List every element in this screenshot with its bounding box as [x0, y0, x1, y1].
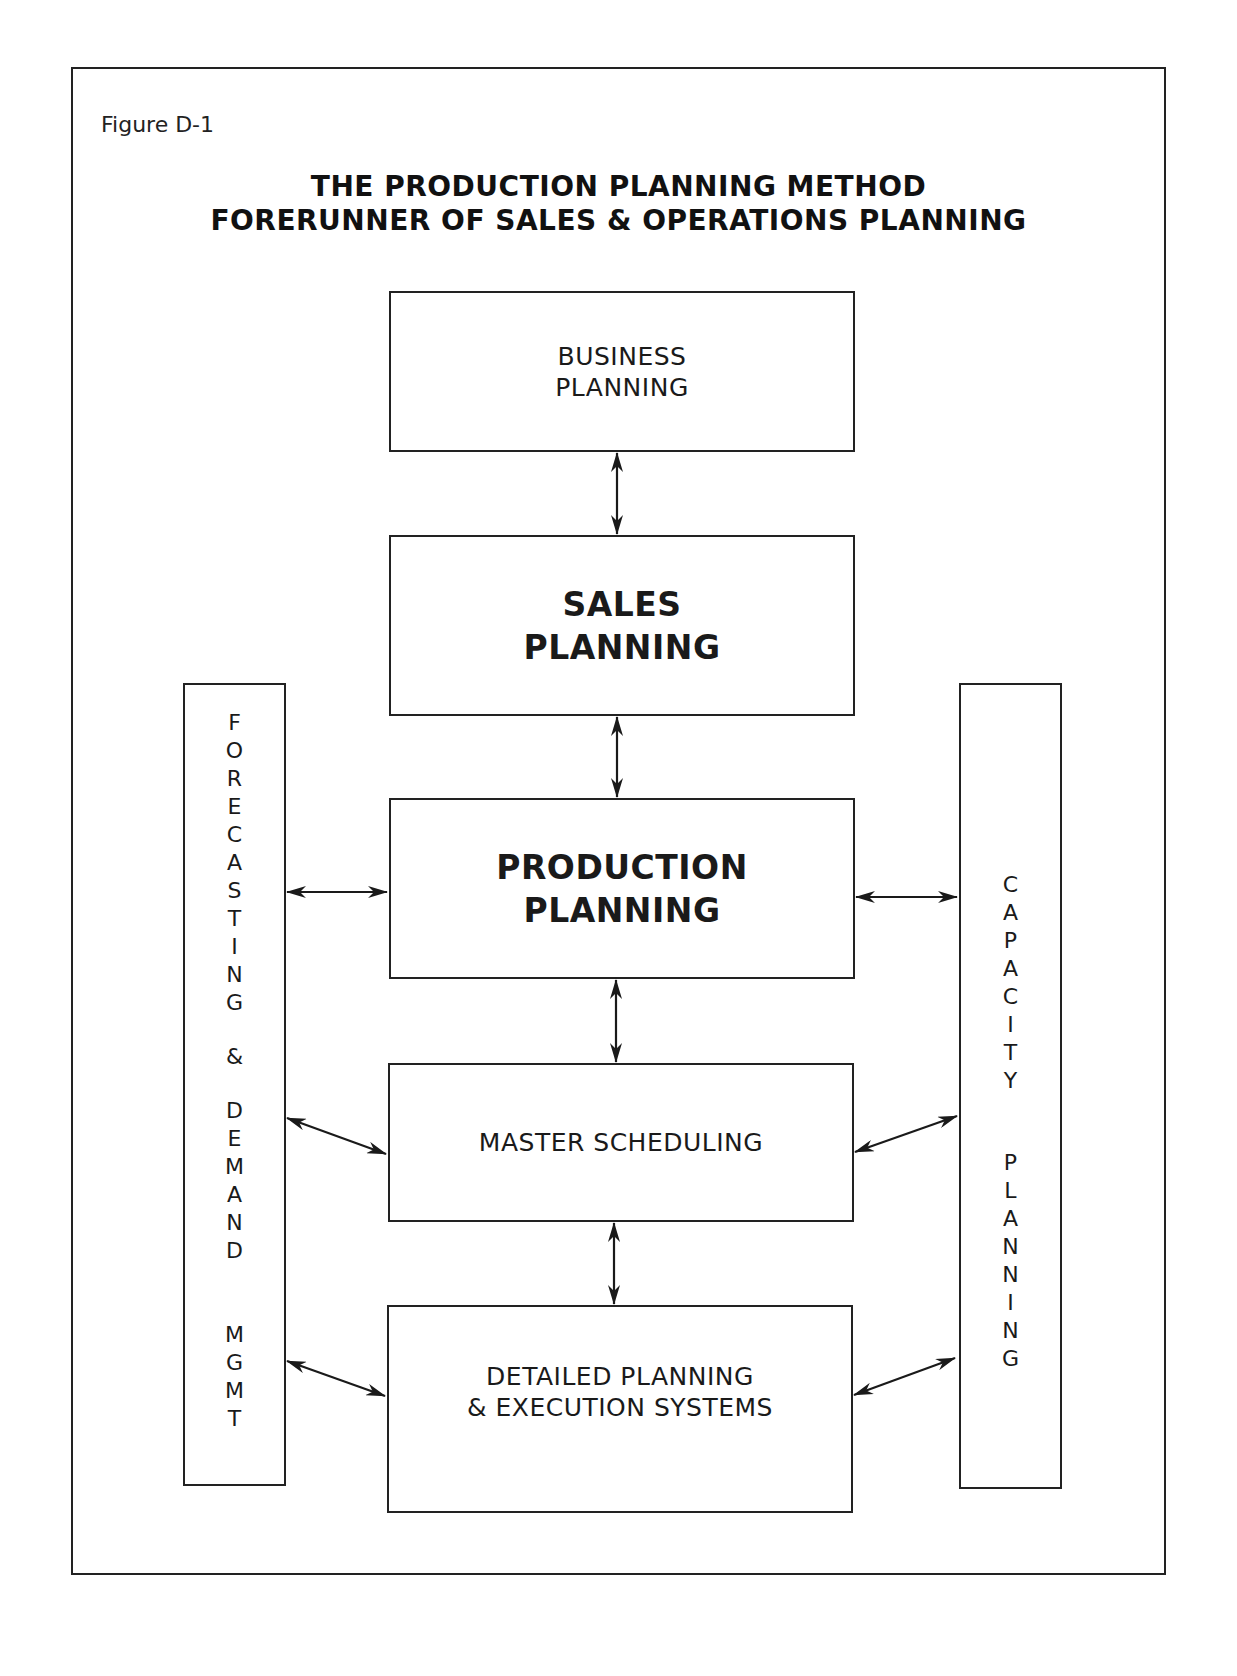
arrow-forecast-master: [287, 1118, 386, 1154]
arrow-forecast-detailed: [287, 1361, 385, 1396]
connector-arrows: [0, 0, 1237, 1676]
arrow-detailed-capacity: [854, 1358, 955, 1395]
arrow-master-capacity: [855, 1116, 957, 1152]
